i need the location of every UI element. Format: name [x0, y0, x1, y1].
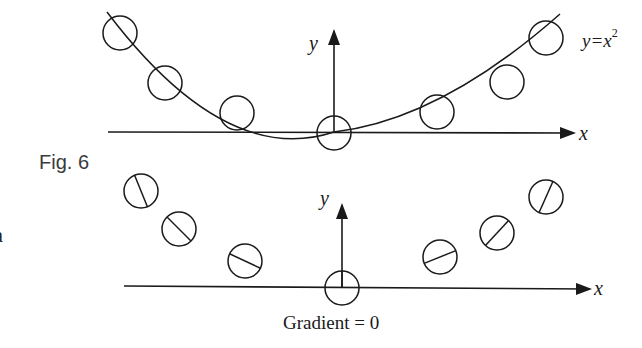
top-x-axis: [108, 132, 574, 133]
curve-equation-base: y=x: [582, 30, 612, 51]
tilted-ball: [124, 174, 158, 208]
tilted-ball: [228, 244, 262, 278]
ball: [103, 16, 137, 50]
tilted-ball: [162, 212, 196, 246]
bottom-x-axis-label: x: [594, 277, 603, 300]
ball: [490, 65, 524, 99]
top-x-axis-label: x: [579, 122, 588, 145]
curve-equation-label: y=x2: [582, 29, 618, 52]
tilted-ball: [529, 180, 563, 214]
curve-equation-exponent: 2: [612, 26, 618, 40]
top-y-axis-label: y: [309, 32, 318, 55]
bottom-circles: [124, 174, 563, 305]
bottom-x-axis: [124, 286, 590, 289]
gradient-annotation: Gradient = 0: [283, 312, 379, 334]
tilted-ball: [423, 240, 457, 274]
top-diagram: [0, 0, 642, 348]
bottom-y-axis-label: y: [320, 187, 329, 210]
figure-6-gradient-diagram: a Fig. 6: [0, 0, 642, 348]
tilted-ball: [480, 216, 514, 250]
ball: [148, 66, 182, 100]
ball: [220, 96, 254, 130]
